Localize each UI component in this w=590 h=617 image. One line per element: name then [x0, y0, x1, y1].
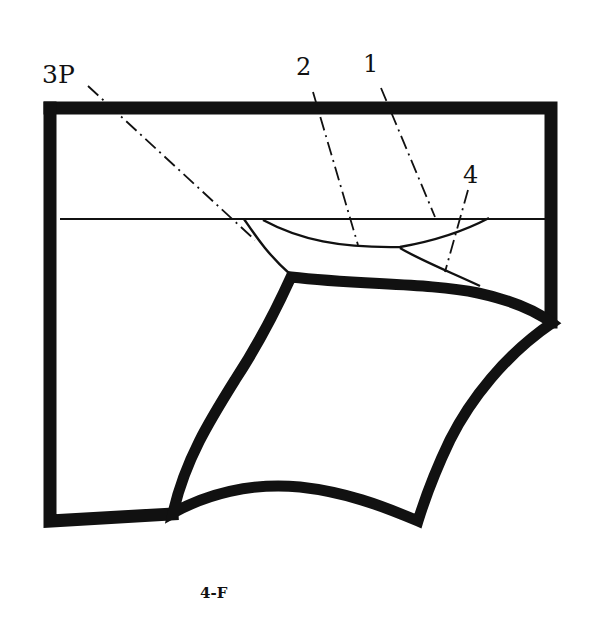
inner-profile — [173, 277, 552, 521]
label-4: 4 — [463, 161, 478, 189]
frame-left-bottom-edges — [50, 108, 172, 521]
technical-diagram: 3P 2 1 4 4-F — [0, 0, 590, 617]
leader-2 — [313, 92, 358, 245]
left-flank-curve — [244, 219, 291, 275]
figure-caption: 4-F — [200, 584, 228, 602]
thin-curves — [244, 218, 489, 286]
label-2: 2 — [296, 53, 311, 81]
crescent-arc — [263, 218, 489, 247]
label-1: 1 — [363, 50, 378, 78]
label-3P: 3P — [42, 60, 75, 89]
